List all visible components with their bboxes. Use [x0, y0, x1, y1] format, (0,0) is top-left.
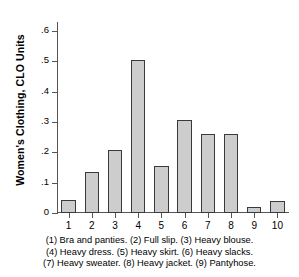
y-tick-label: .2	[41, 145, 49, 156]
bar	[224, 134, 238, 213]
x-tick-mark	[254, 213, 255, 218]
bar-chart-figure: Women's Clothing, CLO Units 0.1.2.3.4.5.…	[0, 0, 299, 277]
figure-caption: (1) Bra and panties. (2) Full slip. (3) …	[0, 235, 299, 270]
x-tick-label: 1	[66, 220, 72, 231]
x-tick-label: 5	[159, 220, 165, 231]
x-tick-mark	[138, 213, 139, 218]
x-tick-mark	[208, 213, 209, 218]
y-tick-label: .5	[41, 54, 49, 65]
y-tick-mark	[52, 122, 58, 123]
x-tick-label: 8	[228, 220, 234, 231]
y-tick-label: 0	[44, 206, 49, 217]
plot-area: 0.1.2.3.4.5.6 12345678910	[57, 22, 289, 213]
bar	[247, 207, 261, 213]
bar	[177, 120, 191, 213]
bar	[201, 134, 215, 213]
y-axis-title: Women's Clothing, CLO Units	[14, 10, 26, 210]
x-tick-mark	[161, 213, 162, 218]
bar	[270, 201, 284, 213]
y-tick-label: .3	[41, 115, 49, 126]
caption-line-1: (1) Bra and panties. (2) Full slip. (3) …	[0, 235, 299, 247]
bar	[131, 60, 145, 213]
x-tick-label: 7	[205, 220, 211, 231]
x-tick-mark	[115, 213, 116, 218]
bar	[108, 150, 122, 213]
y-tick-label: .4	[41, 85, 49, 96]
y-tick-label: .1	[41, 176, 49, 187]
x-tick-label: 2	[89, 220, 95, 231]
y-tick-label: .6	[41, 24, 49, 35]
y-tick-mark	[52, 31, 58, 32]
x-tick-mark	[69, 213, 70, 218]
caption-line-3: (7) Heavy sweater. (8) Heavy jacket. (9)…	[0, 258, 299, 270]
x-tick-mark	[92, 213, 93, 218]
y-tick-mark	[52, 183, 58, 184]
x-tick-label: 9	[251, 220, 257, 231]
x-tick-label: 4	[135, 220, 141, 231]
bar	[154, 166, 168, 213]
x-tick-label: 6	[182, 220, 188, 231]
x-tick-mark	[231, 213, 232, 218]
x-tick-label: 10	[272, 220, 283, 231]
x-tick-label: 3	[112, 220, 118, 231]
y-tick-mark	[52, 61, 58, 62]
bar	[85, 172, 99, 213]
bar	[61, 200, 75, 213]
y-axis-line	[57, 22, 58, 213]
y-tick-mark	[52, 92, 58, 93]
y-tick-mark	[52, 213, 58, 214]
y-tick-mark	[52, 152, 58, 153]
caption-line-2: (4) Heavy dress. (5) Heavy skirt. (6) He…	[0, 247, 299, 259]
x-tick-mark	[185, 213, 186, 218]
x-tick-mark	[277, 213, 278, 218]
